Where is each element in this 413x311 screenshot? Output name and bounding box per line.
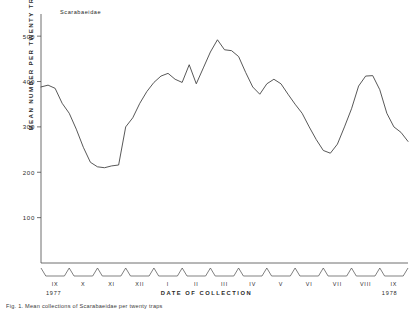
x-axis-month-bracket	[126, 268, 154, 276]
y-tick-label: 400	[13, 78, 35, 85]
y-tick-label: 300	[13, 123, 35, 130]
x-tick-label: II	[194, 281, 199, 287]
x-axis-title: DATE OF COLLECTION	[0, 290, 413, 296]
x-axis-month-bracket	[41, 268, 69, 276]
figure-caption: Fig. 1. Mean collections of Scarabaeidae…	[6, 303, 406, 309]
x-axis-month-bracket	[239, 268, 267, 276]
x-tick-label: IV	[249, 281, 256, 287]
x-axis-month-bracket	[323, 268, 351, 276]
x-tick-label: VII	[333, 281, 342, 287]
x-axis-month-bracket	[154, 268, 182, 276]
x-tick-label: X	[81, 281, 85, 287]
x-axis-month-bracket	[295, 268, 323, 276]
plot-annotation-taxon: Scarabaeidae	[60, 9, 101, 15]
x-axis-month-bracket	[98, 268, 126, 276]
x-axis-year-label: 1977	[46, 290, 62, 296]
data-line-0	[41, 40, 408, 168]
figure-scarabaeidae-time-series: MEAN NUMBER PER TWENTY TRAPS Scarabaeida…	[0, 0, 413, 311]
data-series-layer	[41, 40, 408, 168]
y-tick-label: 200	[13, 169, 35, 176]
y-tick-label: 500	[13, 33, 35, 40]
x-tick-label: XI	[108, 281, 115, 287]
x-tick-label: VIII	[360, 281, 372, 287]
x-axis-year-label: 1978	[382, 290, 398, 296]
x-axis-month-bracket	[380, 268, 408, 276]
x-axis-month-bracket	[210, 268, 238, 276]
x-tick-label: I	[167, 281, 169, 287]
x-axis-month-bracket	[182, 268, 210, 276]
x-tick-label: III	[221, 281, 228, 287]
plot-canvas	[0, 0, 413, 311]
y-tick-label: 100	[13, 214, 35, 221]
x-axis-month-bracket	[352, 268, 380, 276]
axis-layer	[37, 14, 408, 263]
x-axis-bracket-group	[41, 268, 408, 276]
x-tick-label: IX	[52, 281, 59, 287]
x-tick-label: V	[279, 281, 283, 287]
x-tick-label: VI	[306, 281, 313, 287]
x-tick-label: IX	[390, 281, 397, 287]
x-tick-label: XII	[135, 281, 144, 287]
x-axis-month-bracket	[69, 268, 97, 276]
x-axis-month-bracket	[267, 268, 295, 276]
